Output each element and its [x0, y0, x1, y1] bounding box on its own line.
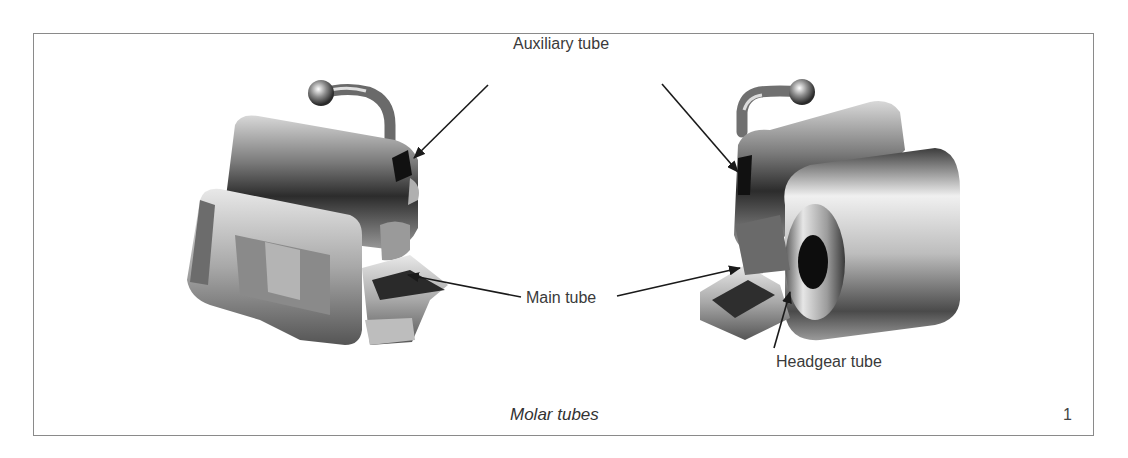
figure-number: 1 [1063, 406, 1072, 424]
left-molar-tube [187, 80, 448, 345]
label-main-tube: Main tube [526, 289, 596, 307]
arrow-auxiliary-left [414, 85, 488, 158]
right-molar-tube [700, 79, 960, 340]
figure-illustration [0, 0, 1128, 458]
label-headgear-tube: Headgear tube [776, 353, 882, 371]
label-auxiliary-tube: Auxiliary tube [513, 35, 609, 53]
figure-caption: Molar tubes [510, 405, 599, 425]
arrow-auxiliary-right [662, 84, 738, 172]
